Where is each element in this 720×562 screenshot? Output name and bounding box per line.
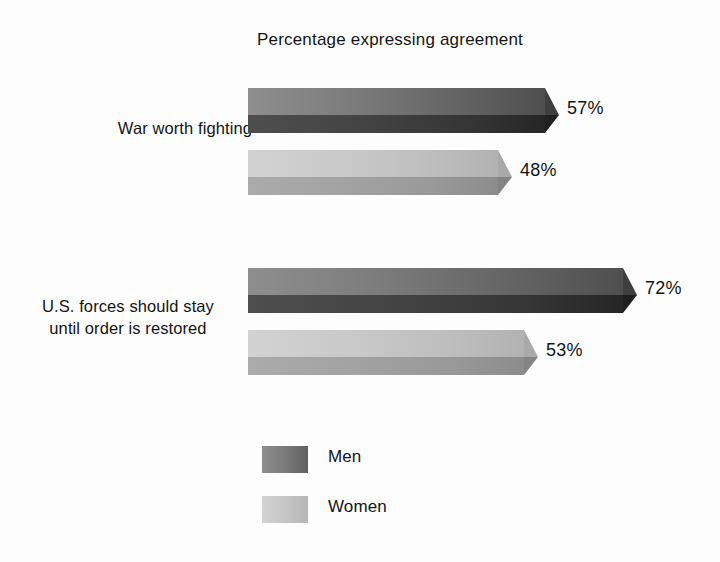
bar-value-label: 72% bbox=[645, 278, 682, 299]
category-label-line-1: U.S. forces should stay bbox=[0, 296, 258, 318]
bar-face-top bbox=[248, 150, 498, 177]
category-label-war-worth-fighting: War worth fighting bbox=[0, 118, 252, 140]
bar-face-bottom bbox=[248, 357, 524, 375]
legend-item-women: Women bbox=[262, 496, 562, 523]
bar-bevel-cap bbox=[623, 268, 637, 313]
bar-chart: Percentage expressing agreement War wort… bbox=[0, 0, 720, 562]
bar-body bbox=[248, 150, 498, 195]
bar-face-bottom bbox=[248, 177, 498, 195]
bar-war-worth-fighting-women: 48% bbox=[248, 150, 498, 195]
bar-war-worth-fighting-men: 57% bbox=[248, 88, 545, 133]
legend-item-men: Men bbox=[262, 446, 562, 473]
bar-value-label: 53% bbox=[546, 340, 583, 361]
bar-face-top bbox=[248, 268, 623, 295]
legend-label-men: Men bbox=[328, 447, 361, 467]
bar-face-bottom bbox=[248, 295, 623, 313]
bar-face-bottom bbox=[248, 115, 545, 133]
bar-bevel-cap bbox=[545, 88, 559, 133]
bar-face-top bbox=[248, 330, 524, 357]
bar-body bbox=[248, 88, 545, 133]
legend-swatch-men-icon bbox=[262, 446, 308, 473]
plot-area: War worth fighting 57% 48% bbox=[0, 0, 720, 430]
bar-body bbox=[248, 268, 623, 313]
legend-label-women: Women bbox=[328, 497, 387, 517]
bar-value-label: 48% bbox=[520, 160, 557, 181]
category-label-us-forces-should-stay: U.S. forces should stay until order is r… bbox=[0, 296, 258, 340]
category-label-line-2: until order is restored bbox=[0, 318, 258, 340]
bar-value-label: 57% bbox=[567, 98, 604, 119]
bar-bevel-cap bbox=[524, 330, 538, 375]
bar-body bbox=[248, 330, 524, 375]
bar-face-top bbox=[248, 88, 545, 115]
bar-us-forces-men: 72% bbox=[248, 268, 623, 313]
legend-swatch-women-icon bbox=[262, 496, 308, 523]
category-label-line-1: War worth fighting bbox=[118, 119, 252, 137]
chart-legend: Men Women bbox=[262, 446, 562, 546]
bar-bevel-cap bbox=[498, 150, 512, 195]
bar-us-forces-women: 53% bbox=[248, 330, 524, 375]
